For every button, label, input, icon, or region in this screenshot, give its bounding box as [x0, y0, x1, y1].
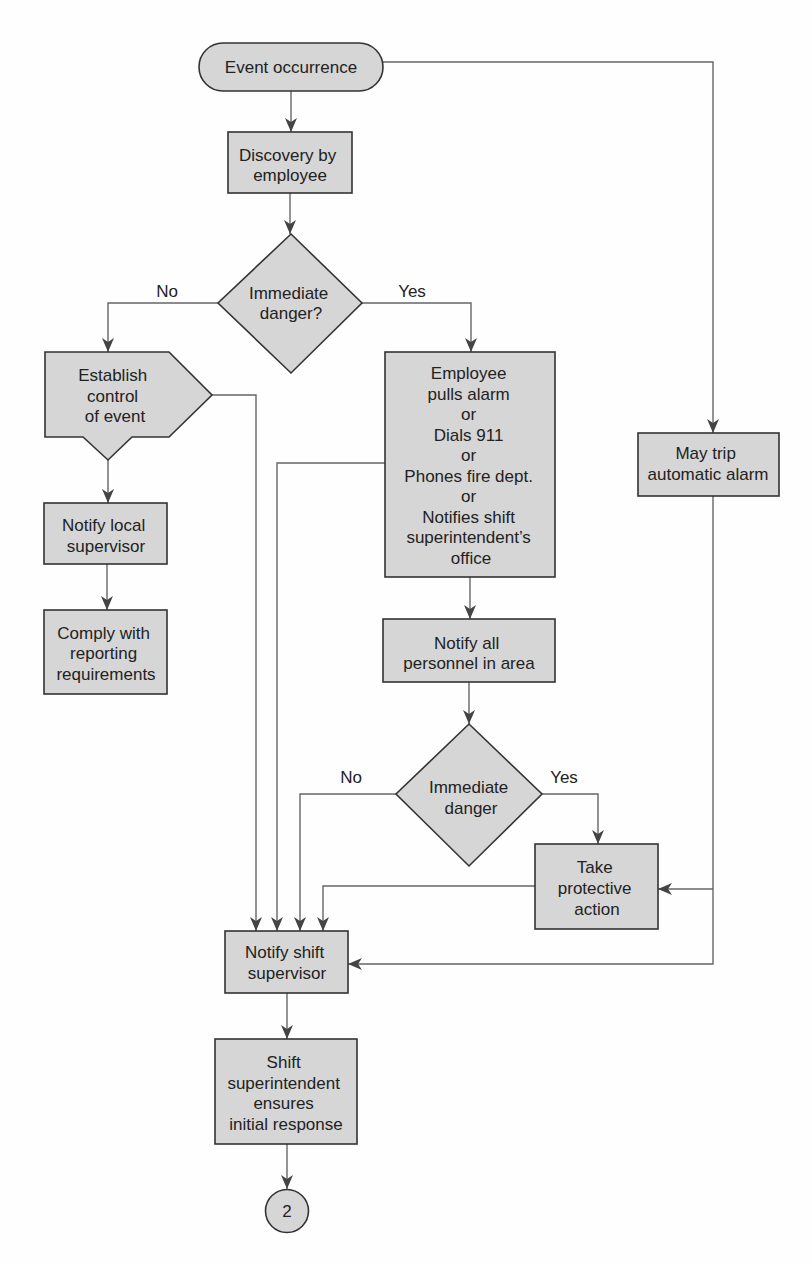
arrow-establish-to-notify-shift [212, 395, 256, 931]
node-connector-2: 2 [266, 1190, 309, 1233]
node-auto-alarm: May trip automatic alarm [638, 433, 779, 496]
process-shape [225, 931, 348, 993]
node-notify-shift: Notify shift supervisor [225, 931, 348, 993]
node-protective-action: Take protective action [535, 844, 658, 929]
node-label: Discovery by employee [239, 146, 341, 185]
node-shift-superintendent: Shift superintendent ensures initial res… [215, 1039, 357, 1144]
node-notify-all: Notify all personnel in area [383, 619, 555, 682]
node-label: Comply with reporting requirements [56, 624, 155, 684]
node-notify-local: Notify local supervisor [44, 503, 167, 564]
decision2-no-label: No [340, 768, 362, 787]
node-decision-2: Immediate danger [396, 724, 542, 866]
arrow-decision2-no [300, 794, 396, 931]
node-discovery: Discovery by employee [228, 132, 352, 193]
node-establish-control: Establish control of event [45, 352, 212, 460]
decision1-yes-label: Yes [398, 282, 426, 301]
node-decision-1: Immediate danger? [218, 234, 362, 373]
decision2-yes-label: Yes [550, 768, 578, 787]
arrow-employee-to-notify-shift [277, 463, 385, 931]
node-label: Immediate danger? [249, 284, 333, 323]
flowchart: No Yes No Yes Event occurrence Discovery… [0, 0, 812, 1264]
node-label: Establish control of event [78, 366, 152, 426]
arrow-decision1-yes [362, 303, 471, 352]
node-label: Event occurrence [225, 58, 357, 77]
arrow-protective-to-notify-shift [323, 886, 535, 931]
node-comply: Comply with reporting requirements [44, 610, 167, 694]
connector-label: 2 [282, 1202, 291, 1221]
flowchart-page: No Yes No Yes Event occurrence Discovery… [0, 0, 812, 1264]
decision1-no-label: No [156, 282, 178, 301]
node-employee-action: Employee pulls alarm or Dials 911 or Pho… [385, 352, 555, 577]
node-event-occurrence: Event occurrence [199, 43, 383, 91]
arrow-decision1-no [108, 303, 218, 352]
arrow-decision2-yes [542, 794, 598, 844]
